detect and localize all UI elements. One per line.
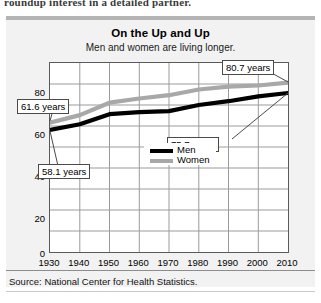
source-note: Source: National Center for Health Stati…: [9, 276, 198, 287]
legend-label-women: Women: [177, 154, 210, 165]
source-divider-top: [6, 270, 315, 271]
y-tick-label-20: 20: [19, 213, 45, 224]
callout-men-start: 58.1 years: [38, 164, 90, 179]
legend-swatch-men: [150, 149, 173, 153]
chart-legend: Men Women: [144, 143, 216, 165]
y-tick-label-80: 80: [19, 87, 45, 98]
chart-figure: On the Up and Up Men and women are livin…: [6, 16, 315, 287]
source-divider-bottom: [6, 291, 315, 292]
y-tick-label-60: 60: [19, 129, 45, 140]
x-tick-label-2010: 2010: [267, 257, 307, 268]
figure-top-bar: [6, 16, 315, 20]
chart-title: On the Up and Up: [6, 27, 315, 39]
figure-page: roundup interest in a detailed partner. …: [0, 0, 321, 303]
legend-swatch-women: [150, 159, 173, 163]
chart-subtitle: Men and women are living longer.: [6, 42, 315, 53]
callout-women-end: 80.7 years: [222, 60, 274, 75]
callout-women-start: 61.6 years: [17, 99, 69, 114]
page-text-fragment: roundup interest in a detailed partner.: [4, 0, 317, 9]
